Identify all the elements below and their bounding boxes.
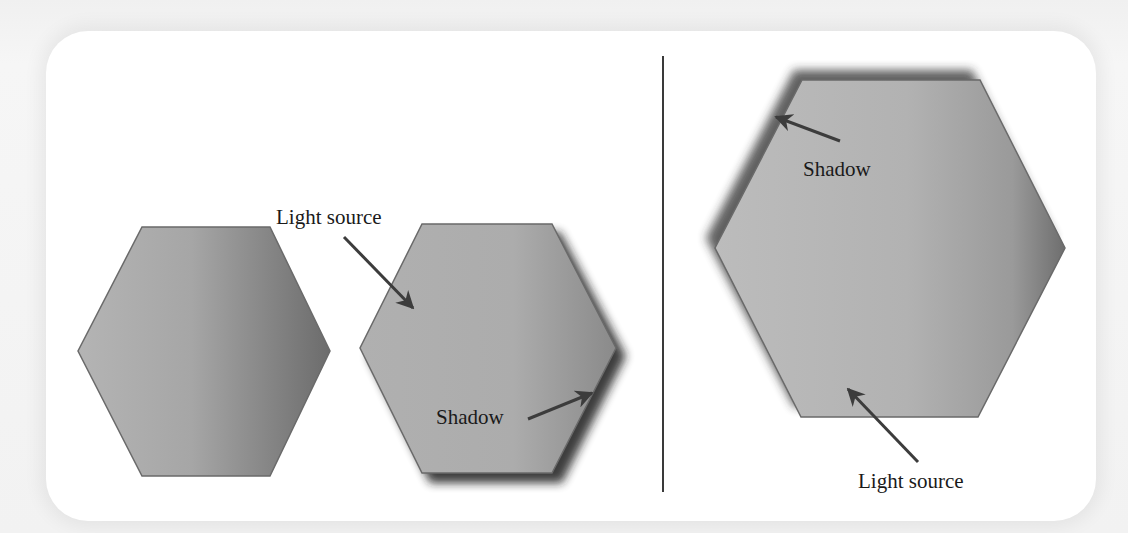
light-source-label-right: Light source [858, 469, 964, 493]
diagram-canvas: Light source Shadow Shadow Light source [0, 0, 1128, 533]
light-source-label-left: Light source [276, 205, 382, 229]
shadow-label-left: Shadow [436, 405, 505, 429]
shadow-label-right: Shadow [803, 157, 872, 181]
plain-hexagon [78, 227, 330, 476]
